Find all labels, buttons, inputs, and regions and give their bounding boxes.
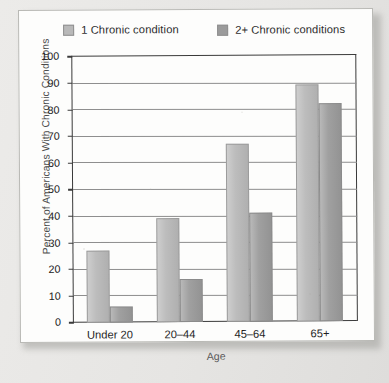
bar-sheen [250,213,272,320]
y-axis-tick-label: 90 [47,77,59,89]
x-axis-title: Age [207,350,226,362]
y-axis-tick-label: 80 [48,103,60,115]
bar-one-condition [295,85,319,322]
bar-group [225,56,273,322]
y-axis-title: Percent of Americans With Chronic Condit… [40,36,52,256]
bar-two-plus-conditions [180,279,203,322]
y-axis-tick-label: 10 [49,290,61,302]
y-axis-tick-label: 50 [48,183,60,195]
y-axis-tick-label: 60 [48,157,60,169]
bar-sheen [157,219,179,321]
bar-series-layer [72,55,358,323]
y-axis-tick-label: 100 [41,50,59,62]
bar-group [85,56,133,322]
bar-one-condition [156,218,180,322]
x-axis-tick-label: 20–44 [164,328,195,340]
bar-two-plus-conditions [110,306,133,322]
bar-group [295,55,343,321]
plot-area: 1009080706050403020100 Under 2020–4445–6… [71,55,357,323]
bar-sheen [296,86,318,321]
bar-one-condition [226,143,250,321]
bar-two-plus-conditions [249,212,273,321]
y-axis-tick-label: 70 [48,130,60,142]
y-axis-tick-label: 40 [48,210,60,222]
bar-sheen [181,280,202,321]
y-axis-tick-label: 20 [49,263,61,275]
x-axis-tick-label: 65+ [310,327,329,339]
chart-card: 1 Chronic condition 2+ Chronic condition… [18,8,375,343]
bar-group [155,56,203,322]
bar-sheen [320,104,342,320]
x-axis-tick-label: 45–64 [234,328,265,340]
x-axis-tick-label: Under 20 [87,328,133,340]
y-axis-tick-label: 0 [55,316,61,328]
bar-two-plus-conditions [319,103,343,321]
y-axis-tick-label: 30 [48,236,60,248]
bar-sheen [111,307,132,321]
bar-sheen [227,144,249,320]
bar-sheen [87,252,108,322]
bar-one-condition [86,251,109,323]
chart-plot-wrapper: Percent of Americans With Chronic Condit… [19,9,376,344]
